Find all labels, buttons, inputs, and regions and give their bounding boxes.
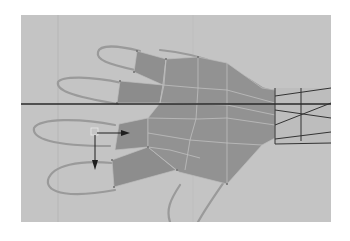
wrist-wireframe[interactable] bbox=[275, 88, 331, 144]
hand-mesh[interactable] bbox=[111, 50, 275, 188]
manipulator-center-handle bbox=[91, 128, 98, 135]
y-axis-arrow-head-icon bbox=[92, 160, 98, 170]
modeling-viewport[interactable] bbox=[21, 15, 331, 222]
